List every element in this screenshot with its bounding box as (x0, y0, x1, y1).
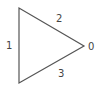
triangle-shape (0, 0, 102, 92)
label-apex: 0 (88, 42, 94, 52)
label-bottom-edge: 3 (58, 69, 64, 79)
diagram-canvas: 1 2 0 3 (0, 0, 102, 92)
label-top-edge: 2 (56, 14, 62, 24)
label-left-edge: 1 (6, 41, 12, 51)
